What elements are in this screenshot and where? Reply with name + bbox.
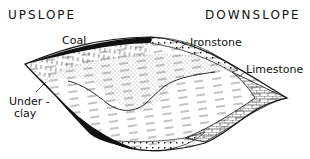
upslope-heading: UPSLOPE (8, 8, 76, 22)
lens-body (0, 0, 310, 159)
underclay-label-line2: clay (14, 108, 36, 120)
underclay-leader (36, 82, 46, 92)
cyclothem-lens-diagram (0, 0, 310, 159)
downslope-heading: DOWNSLOPE (205, 8, 301, 22)
limestone-label: Limestone (246, 64, 303, 76)
coal-label: Coal (62, 35, 86, 47)
ironstone-label: Ironstone (190, 37, 242, 49)
